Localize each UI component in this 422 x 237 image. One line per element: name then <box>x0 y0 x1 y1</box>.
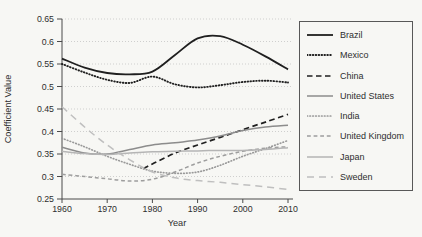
axes <box>57 19 293 203</box>
legend-label: Brazil <box>340 30 363 40</box>
x-axis-title: Year <box>168 218 187 228</box>
legend-label: Sweden <box>340 172 373 182</box>
x-tick-label: 1970 <box>97 204 117 214</box>
x-tick-label: 2000 <box>233 204 253 214</box>
series-line-china <box>143 114 288 168</box>
united-states-line-sample-icon <box>307 91 333 101</box>
china-line-sample-icon <box>307 71 333 81</box>
legend-label: Mexico <box>340 50 369 60</box>
legend-label: China <box>340 71 364 81</box>
legend-item-mexico: Mexico <box>307 49 412 61</box>
x-tick-label: 1990 <box>188 204 208 214</box>
legend-item-china: China <box>307 70 412 82</box>
legend-item-united-kingdom: United Kingdom <box>307 130 412 142</box>
y-tick-label: 0.4 <box>42 127 54 137</box>
legend-label: India <box>340 111 360 121</box>
x-tick-label: 2010 <box>278 204 298 214</box>
sweden-line-sample-icon <box>307 172 333 182</box>
y-tick-label: 0.5 <box>42 82 54 92</box>
legend-box: BrazilMexicoChinaUnited StatesIndiaUnite… <box>299 21 413 191</box>
y-tick-label: 0.6 <box>42 37 54 47</box>
y-axis-title: Coefficient Value <box>3 75 13 144</box>
series-line-mexico <box>62 64 288 87</box>
legend-item-sweden: Sweden <box>307 171 412 183</box>
x-tick-label: 1960 <box>52 204 72 214</box>
x-tick-label: 1980 <box>143 204 163 214</box>
axis-tick-labels: 0.250.30.350.40.450.50.550.60.6519601970… <box>37 14 298 214</box>
y-tick-label: 0.3 <box>42 172 54 182</box>
legend-item-japan: Japan <box>307 151 412 163</box>
series-line-japan <box>62 148 288 155</box>
y-tick-label: 0.45 <box>37 104 54 114</box>
y-tick-label: 0.35 <box>37 149 54 159</box>
japan-line-sample-icon <box>307 152 333 162</box>
y-tick-label: 0.55 <box>37 59 54 69</box>
legend-item-india: India <box>307 110 412 122</box>
india-line-sample-icon <box>307 111 333 121</box>
mexico-line-sample-icon <box>307 50 333 60</box>
brazil-line-sample-icon <box>307 30 333 40</box>
united-kingdom-line-sample-icon <box>307 131 333 141</box>
y-tick-label: 0.65 <box>37 14 54 24</box>
series-line-india <box>62 138 288 173</box>
y-tick-label: 0.25 <box>37 194 54 204</box>
legend-label: Japan <box>340 152 365 162</box>
legend-label: United States <box>340 91 394 101</box>
legend-item-brazil: Brazil <box>307 29 412 41</box>
legend-item-united-states: United States <box>307 90 412 102</box>
coefficient-line-chart-figure: 0.250.30.350.40.450.50.550.60.6519601970… <box>0 0 422 237</box>
legend-label: United Kingdom <box>340 131 404 141</box>
series-lines <box>62 36 288 190</box>
